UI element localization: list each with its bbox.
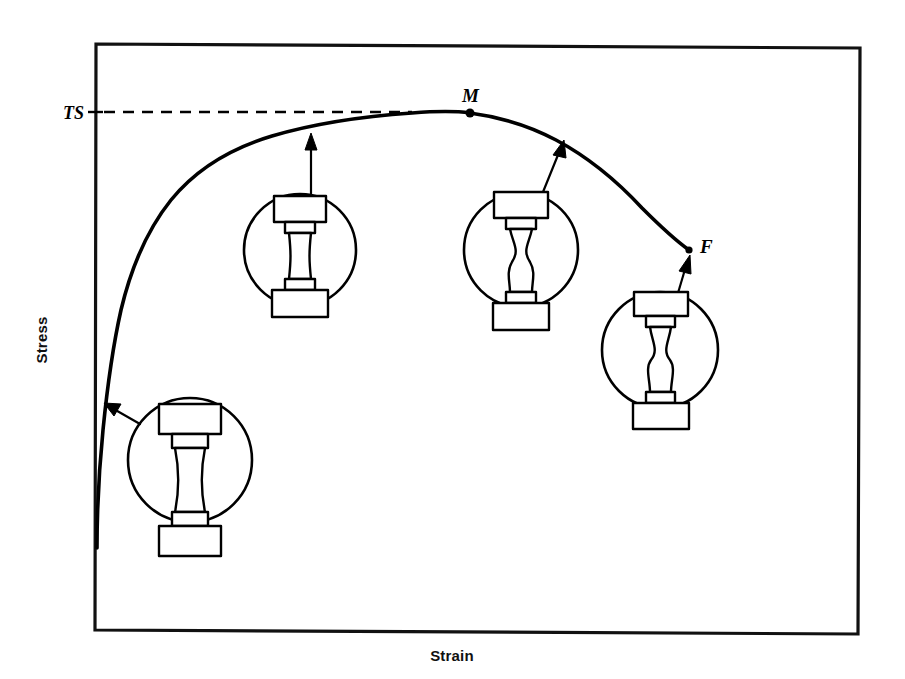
diagram-canvas: M F TS Strain Stress bbox=[0, 0, 905, 679]
specimen-2-bottom-grip bbox=[272, 290, 328, 317]
specimen-1-upper-shoulder bbox=[172, 434, 208, 448]
max-point-label: M bbox=[461, 85, 480, 106]
specimen-3-top-grip bbox=[494, 192, 548, 218]
specimen-4-upper-shoulder bbox=[646, 316, 675, 327]
fracture-point-marker bbox=[685, 246, 692, 253]
max-point-marker bbox=[466, 109, 475, 118]
specimen-1-gauge-section bbox=[175, 448, 205, 512]
specimen-2-upper-shoulder bbox=[285, 222, 315, 233]
specimen-3-upper-shoulder bbox=[506, 218, 536, 229]
specimen-4-bottom-grip bbox=[633, 403, 689, 429]
callout-specimen-1 bbox=[104, 398, 252, 556]
callout-4-arrow-head bbox=[679, 255, 691, 274]
specimen-3-bottom-grip bbox=[493, 303, 549, 330]
specimen-2-lower-shoulder bbox=[285, 279, 315, 290]
specimen-2-graphic bbox=[272, 196, 328, 317]
specimen-1-top-grip bbox=[159, 404, 221, 434]
x-axis-label: Strain bbox=[430, 647, 474, 664]
callout-specimen-2 bbox=[244, 133, 356, 317]
specimen-4-lower-shoulder bbox=[646, 392, 675, 403]
specimen-3-graphic bbox=[493, 192, 549, 330]
specimen-1-lower-shoulder bbox=[172, 512, 208, 526]
specimen-2-top-grip bbox=[274, 196, 326, 222]
fracture-point-label: F bbox=[699, 236, 713, 257]
callout-2-arrow-head bbox=[305, 133, 317, 150]
specimen-4-fractured-gauge-section bbox=[648, 327, 673, 392]
specimen-3-necked-gauge-section bbox=[509, 229, 534, 292]
specimen-4-graphic bbox=[633, 292, 689, 429]
callout-specimen-3 bbox=[464, 140, 578, 330]
tensile-strength-label: TS bbox=[63, 103, 84, 123]
specimen-4-top-grip bbox=[634, 292, 688, 316]
stress-strain-figure: M F TS Strain Stress bbox=[0, 0, 905, 679]
specimen-1-bottom-grip bbox=[159, 526, 221, 556]
specimen-1-graphic bbox=[159, 404, 221, 556]
y-axis-label: Stress bbox=[33, 316, 50, 363]
specimen-3-lower-shoulder bbox=[506, 292, 536, 303]
specimen-2-gauge-section bbox=[289, 233, 311, 279]
callout-specimen-4 bbox=[602, 255, 718, 429]
